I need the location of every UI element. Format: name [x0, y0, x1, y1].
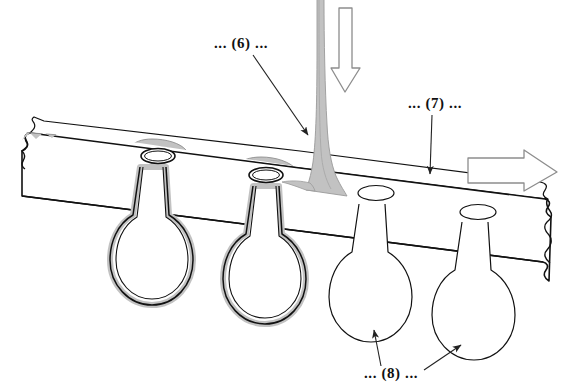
callout-label-6: ... (6) ... [214, 35, 268, 52]
plate-hole-2-inner [253, 170, 280, 180]
callout-label-7: ... (7) ... [408, 95, 462, 112]
figure-canvas: ... (6) ... ... (7) ... ... (8) ... [0, 0, 564, 389]
plate-hole-4 [460, 205, 496, 220]
callout-8-leader-right [424, 345, 461, 370]
technical-diagram: ... (6) ... ... (7) ... ... (8) ... [0, 0, 564, 389]
plate-hole-1-inner [145, 151, 172, 161]
callout-label-8: ... (8) ... [364, 365, 418, 382]
stream-direction-arrow [331, 8, 360, 92]
callout-7-leader [430, 115, 432, 174]
plate-hole-3 [358, 186, 394, 201]
stream-direction-arrow-shape [331, 8, 360, 92]
callout-6-leader [253, 55, 308, 135]
